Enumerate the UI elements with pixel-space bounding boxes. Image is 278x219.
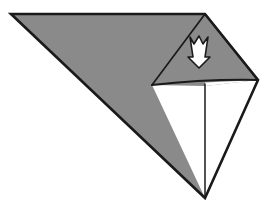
paper-faces-group <box>11 14 258 198</box>
origami-fold-diagram: Origami fold diagram Line drawing of a f… <box>0 0 278 219</box>
diagram-canvas: Origami fold diagram Line drawing of a f… <box>0 0 278 219</box>
